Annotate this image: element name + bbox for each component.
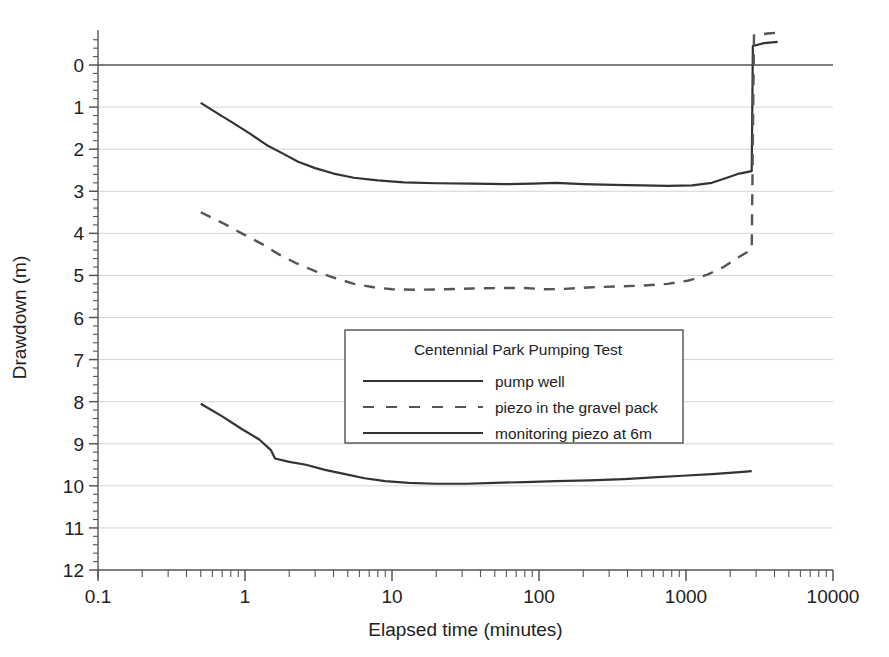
ytick-label: 9 (73, 434, 84, 455)
ytick-label: 5 (73, 265, 84, 286)
xtick-label: 0.1 (85, 586, 111, 607)
axis-ticks (89, 40, 833, 581)
legend-label-1: pump well (495, 373, 565, 390)
ytick-label: 12 (63, 560, 84, 581)
legend-title: Centennial Park Pumping Test (414, 341, 623, 358)
xtick-label: 10000 (807, 586, 860, 607)
xtick-label: 1 (240, 586, 251, 607)
ytick-label: 2 (73, 139, 84, 160)
xtick-label: 10 (381, 586, 402, 607)
ytick-label: 8 (73, 392, 84, 413)
gridlines (98, 107, 833, 528)
x-axis-title: Elapsed time (minutes) (368, 619, 562, 640)
axes (98, 30, 833, 578)
chart-container: 01234567891011120.1110100100010000 Elaps… (0, 0, 889, 657)
ytick-label: 4 (73, 223, 84, 244)
drawdown-time-chart: 01234567891011120.1110100100010000 Elaps… (0, 0, 889, 657)
legend: Centennial Park Pumping Testpump wellpie… (345, 330, 683, 443)
ytick-label: 0 (73, 55, 84, 76)
ytick-label: 6 (73, 308, 84, 329)
series-line-1 (201, 42, 778, 186)
ytick-label: 3 (73, 181, 84, 202)
ytick-label: 11 (64, 518, 84, 539)
ytick-label: 1 (73, 97, 84, 118)
ytick-label: 7 (73, 350, 84, 371)
legend-label-3: monitoring piezo at 6m (495, 425, 652, 442)
y-axis-title: Drawdown (m) (9, 256, 30, 380)
series-line-2 (201, 32, 784, 290)
legend-label-2: piezo in the gravel pack (495, 399, 658, 416)
axis-titles: Elapsed time (minutes)Drawdown (m) (9, 256, 563, 640)
xtick-label: 1000 (665, 586, 707, 607)
ytick-label: 10 (63, 476, 84, 497)
xtick-label: 100 (523, 586, 555, 607)
